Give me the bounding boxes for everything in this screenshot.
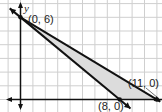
y-axis-arrow-up-icon <box>18 2 23 8</box>
y-axis-arrow-down-icon <box>18 104 23 110</box>
point-0-6 <box>18 15 22 19</box>
x-axis-arrow-left-icon <box>6 97 12 102</box>
point-label-8-0: (8, 0) <box>98 100 124 112</box>
point-label-11-0: (11, 0) <box>128 77 159 89</box>
point-label-0-6: (0, 6) <box>28 13 54 25</box>
linear-inequality-graph: y (0, 6) (8, 0) (11, 0) <box>0 0 162 112</box>
graph-svg: y (0, 6) (8, 0) (11, 0) <box>0 0 162 112</box>
point-11-0 <box>155 97 159 101</box>
